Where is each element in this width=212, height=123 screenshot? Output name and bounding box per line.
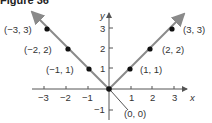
x-tick-label: −2 <box>60 92 71 103</box>
y-tick-label: −1 <box>94 104 105 115</box>
x-tick-label: 2 <box>150 92 155 103</box>
data-points <box>44 26 174 91</box>
point-label: (−2, 2) <box>24 44 52 55</box>
point-label: (2, 2) <box>162 44 184 55</box>
y-ticks <box>109 28 113 110</box>
point-2-2 <box>147 46 152 51</box>
point-3-3 <box>169 26 174 31</box>
point-1-1 <box>127 66 132 71</box>
x-tick-label: −1 <box>82 92 93 103</box>
point-label: (−1, 1) <box>46 64 74 75</box>
point-0-0 <box>106 86 112 92</box>
point-label: (−3, 3) <box>4 24 32 35</box>
point-neg3-3 <box>44 26 49 31</box>
x-tick-label: 1 <box>129 92 134 103</box>
y-tick-label: 2 <box>100 43 105 54</box>
point-label: (0, 0) <box>124 108 146 119</box>
y-tick-label: 3 <box>100 23 105 34</box>
point-label: (3, 3) <box>183 24 205 35</box>
x-tick-label: 3 <box>172 92 177 103</box>
x-axis-label: x <box>189 92 196 103</box>
point-label: (1, 1) <box>140 64 162 75</box>
y-axis-label: y <box>99 10 106 21</box>
absolute-value-graph: −3 −2 −1 1 2 3 −1 1 2 3 x y (−3, 3) (−2,… <box>0 0 212 123</box>
point-neg1-1 <box>86 66 91 71</box>
y-tick-label: 1 <box>100 63 105 74</box>
point-neg2-2 <box>65 46 70 51</box>
x-tick-label: −3 <box>38 92 49 103</box>
